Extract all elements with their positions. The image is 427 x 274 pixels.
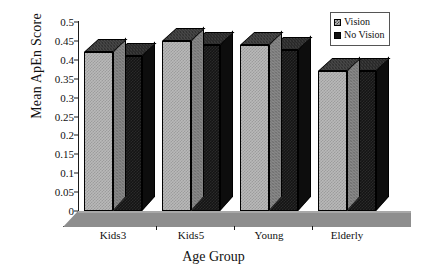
plot-area: 00.050.10.150.20.250.30.350.40.450.5 bbox=[78, 22, 390, 211]
y-tick-mark bbox=[74, 211, 78, 212]
floor-slab bbox=[63, 211, 411, 227]
bar-front-face bbox=[318, 71, 347, 211]
legend-item-label: No Vision bbox=[344, 29, 385, 41]
y-tick-mark bbox=[74, 135, 78, 136]
x-axis-ticks: Kids3Kids5YoungElderly bbox=[63, 229, 411, 247]
legend-swatch-icon bbox=[334, 32, 341, 39]
x-tick-mark bbox=[156, 226, 157, 230]
bar-side-face bbox=[191, 26, 204, 211]
bar-side-face bbox=[376, 57, 389, 211]
y-tick-mark bbox=[74, 154, 78, 155]
y-tick-mark bbox=[74, 59, 78, 60]
x-tick-label-kids3: Kids3 bbox=[100, 229, 126, 241]
y-tick-mark bbox=[74, 116, 78, 117]
bar-young-vision bbox=[240, 45, 269, 211]
x-axis-title: Age Group bbox=[0, 249, 427, 265]
y-tick-mark bbox=[74, 78, 78, 79]
x-tick-mark bbox=[234, 226, 235, 230]
bar-chart-figure: Mean ApEn Score 00.050.10.150.20.250.30.… bbox=[0, 0, 427, 274]
bar-kids3-vision bbox=[84, 52, 113, 211]
y-tick-mark bbox=[74, 97, 78, 98]
y-tick-mark bbox=[74, 22, 78, 23]
y-tick-mark bbox=[74, 173, 78, 174]
y-axis-title: Mean ApEn Score bbox=[29, 0, 45, 161]
bar-side-face bbox=[113, 38, 126, 211]
bar-kids5-vision bbox=[162, 41, 191, 211]
bar-front-face bbox=[84, 52, 113, 211]
x-tick-label-kids5: Kids5 bbox=[178, 229, 204, 241]
bar-front-face bbox=[162, 41, 191, 211]
bar-side-face bbox=[269, 30, 282, 211]
chart-legend: VisionNo Vision bbox=[330, 12, 390, 46]
x-tick-mark bbox=[312, 226, 313, 230]
bar-side-face bbox=[347, 57, 360, 211]
bar-side-face bbox=[220, 30, 233, 211]
plot-floor bbox=[63, 211, 411, 227]
legend-swatch-icon bbox=[334, 19, 341, 26]
bar-front-face bbox=[240, 45, 269, 211]
legend-item-label: Vision bbox=[344, 16, 370, 28]
y-tick-mark bbox=[74, 40, 78, 41]
y-tick-mark bbox=[74, 192, 78, 193]
legend-item-no-vision[interactable]: No Vision bbox=[334, 29, 385, 41]
bar-side-face bbox=[142, 42, 155, 211]
bar-elderly-vision bbox=[318, 71, 347, 211]
x-tick-label-elderly: Elderly bbox=[331, 229, 363, 241]
bar-side-face bbox=[298, 36, 311, 211]
legend-item-vision[interactable]: Vision bbox=[334, 16, 385, 28]
x-tick-label-young: Young bbox=[255, 229, 284, 241]
